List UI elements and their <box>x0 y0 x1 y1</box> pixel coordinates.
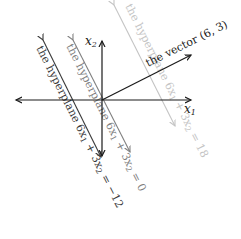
diagram-canvas: the hyperplane 6x1 + 3x2 = 18 the hyperp… <box>0 0 241 239</box>
vector-label: the vector (6, 3) <box>144 18 230 70</box>
hyperplane-18-label: the hyperplane 6x1 + 3x2 = 18 <box>121 1 211 160</box>
x2-axis-label: x2 <box>85 34 97 49</box>
x1-axis-label: x1 <box>184 102 196 117</box>
hyperplane-18: the hyperplane 6x1 + 3x2 = 18 <box>114 1 211 160</box>
